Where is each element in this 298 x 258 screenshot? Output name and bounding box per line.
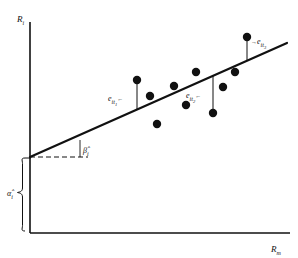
- x-axis-label: Rm: [270, 244, 282, 256]
- regression-scatter-figure: Ri Rm β̂i α̂i eit1←: [0, 0, 298, 258]
- scatter-point: [153, 120, 161, 128]
- intercept-parameter-label: α̂i: [7, 189, 14, 200]
- residual-label-3: →eit3: [251, 37, 267, 50]
- scatter-point: [219, 83, 227, 91]
- scatter-point: [146, 92, 154, 100]
- scatter-point: [133, 76, 141, 84]
- intercept-brace: [18, 158, 26, 231]
- chart-canvas: Ri Rm β̂i α̂i eit1←: [0, 0, 298, 258]
- y-axis-label: Ri: [16, 14, 25, 26]
- scatter-point: [243, 33, 251, 41]
- scatter-point: [209, 109, 217, 117]
- scatter-point: [192, 68, 200, 76]
- residual-label-1: eit1←: [108, 94, 123, 107]
- scatter-points-group: [133, 33, 251, 128]
- axes-group: [30, 22, 290, 233]
- intercept-brace-group: [18, 158, 32, 231]
- scatter-point: [182, 101, 190, 109]
- slope-parameter-label: β̂i: [82, 146, 90, 157]
- regression-line: [30, 43, 287, 157]
- scatter-point: [231, 68, 239, 76]
- scatter-point: [170, 82, 178, 90]
